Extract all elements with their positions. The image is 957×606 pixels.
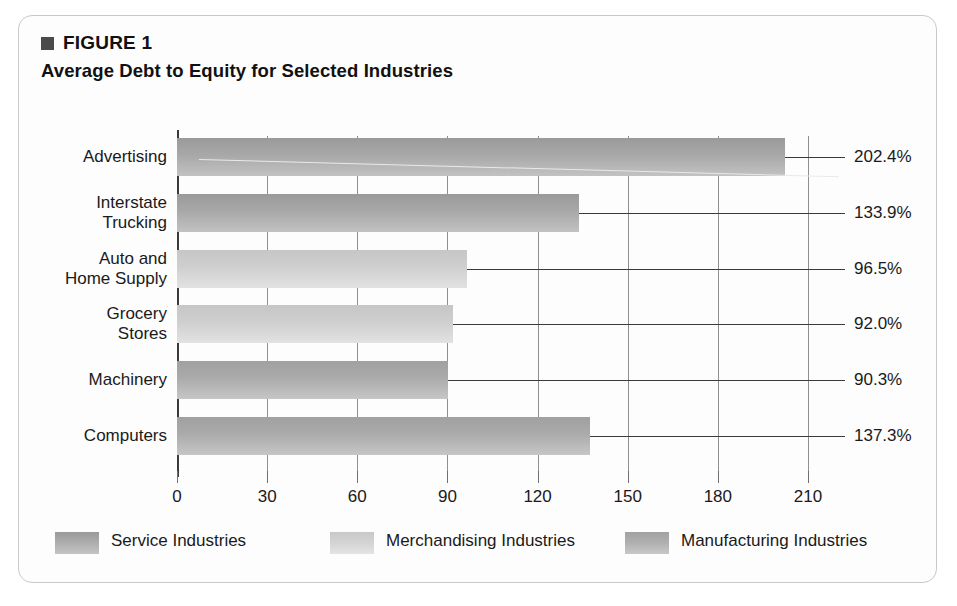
bar-grocery-stores — [177, 305, 453, 343]
x-axis-tick — [628, 471, 629, 483]
bar-machinery — [177, 361, 448, 399]
leader-line — [590, 436, 845, 437]
category-label-line: Machinery — [27, 370, 167, 390]
category-label: Advertising — [27, 147, 167, 167]
x-axis-tick — [808, 471, 809, 483]
category-label: Auto andHome Supply — [27, 249, 167, 289]
x-axis-tick — [447, 471, 448, 483]
x-axis-tick-label: 90 — [438, 487, 457, 507]
x-axis-tick-label: 30 — [258, 487, 277, 507]
leader-line — [785, 157, 845, 158]
square-bullet-icon — [41, 37, 54, 50]
value-label: 96.5% — [854, 259, 902, 279]
category-label-line: Advertising — [27, 147, 167, 167]
figure-label: FIGURE 1 — [63, 32, 152, 54]
category-label-line: Interstate — [27, 193, 167, 213]
legend-swatch-service — [55, 532, 99, 554]
x-axis-tick-label: 150 — [614, 487, 642, 507]
category-label: Computers — [27, 426, 167, 446]
category-label-line: Grocery — [27, 304, 167, 324]
leader-line — [467, 269, 845, 270]
x-axis: 0306090120150180210 — [177, 471, 808, 515]
gridline — [718, 136, 719, 471]
category-label: GroceryStores — [27, 304, 167, 344]
legend-label: Service Industries — [111, 531, 246, 551]
x-axis-tick-label: 60 — [348, 487, 367, 507]
leader-line — [453, 324, 845, 325]
x-axis-tick-label: 210 — [794, 487, 822, 507]
x-axis-tick-label: 180 — [704, 487, 732, 507]
x-axis-tick-label: 120 — [523, 487, 551, 507]
category-label-line: Home Supply — [27, 269, 167, 289]
x-axis-tick-label: 0 — [172, 487, 181, 507]
gridline — [808, 136, 809, 471]
value-label: 202.4% — [854, 147, 912, 167]
category-label: InterstateTrucking — [27, 193, 167, 233]
legend-label: Manufacturing Industries — [681, 531, 867, 551]
figure-card: FIGURE 1 Average Debt to Equity for Sele… — [18, 15, 937, 583]
figure-title: Average Debt to Equity for Selected Indu… — [41, 60, 453, 82]
figure-header: FIGURE 1 Average Debt to Equity for Sele… — [41, 32, 453, 82]
value-label: 133.9% — [854, 203, 912, 223]
x-axis-tick — [718, 471, 719, 483]
value-label: 92.0% — [854, 314, 902, 334]
category-label: Machinery — [27, 370, 167, 390]
legend-label: Merchandising Industries — [386, 531, 575, 551]
bar-auto-and-home-supply — [177, 250, 467, 288]
bar-computers — [177, 417, 590, 455]
category-label-line: Stores — [27, 324, 167, 344]
category-label-line: Auto and — [27, 249, 167, 269]
legend-swatch-manu — [625, 532, 669, 554]
x-axis-tick — [538, 471, 539, 483]
x-axis-tick — [357, 471, 358, 483]
x-axis-tick — [177, 471, 178, 483]
leader-line — [448, 380, 845, 381]
value-label: 137.3% — [854, 426, 912, 446]
category-label-line: Trucking — [27, 213, 167, 233]
value-label: 90.3% — [854, 370, 902, 390]
chart-plot-area — [177, 136, 808, 471]
bar-advertising — [177, 138, 785, 176]
x-axis-tick — [267, 471, 268, 483]
gridline — [628, 136, 629, 471]
legend-swatch-merch — [330, 532, 374, 554]
chart-legend: Service IndustriesMerchandising Industri… — [55, 528, 905, 562]
leader-line — [579, 213, 845, 214]
category-label-line: Computers — [27, 426, 167, 446]
bar-interstate-trucking — [177, 194, 579, 232]
